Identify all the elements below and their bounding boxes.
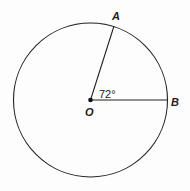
center-point xyxy=(88,98,93,103)
label-o: O xyxy=(85,106,94,118)
angle-label: 72° xyxy=(99,88,116,100)
label-a: A xyxy=(111,10,120,22)
label-b: B xyxy=(171,96,179,108)
circle-diagram: A B O 72° xyxy=(0,0,190,191)
diagram-svg: A B O 72° xyxy=(0,0,190,191)
